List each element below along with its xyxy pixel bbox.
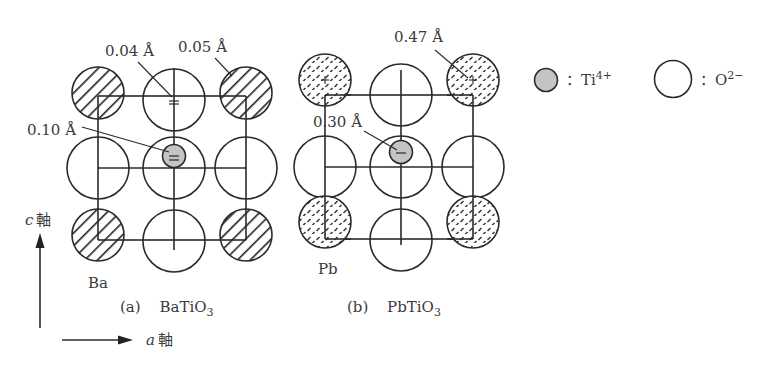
caption-b-prefix: (b) bbox=[347, 298, 368, 316]
a-axis-arrowhead bbox=[118, 336, 133, 345]
leader-line bbox=[364, 131, 397, 150]
leader-line bbox=[82, 127, 169, 152]
ti4-legend-label: ：Ti4+ bbox=[566, 69, 612, 89]
displacement-label-pb: 0.47 Å bbox=[394, 28, 443, 46]
a-site-label-ba: Ba bbox=[88, 274, 108, 292]
leader-line bbox=[215, 58, 232, 76]
o2-legend-label: ：O2− bbox=[700, 69, 744, 89]
ti4-ion bbox=[390, 141, 413, 164]
caption-a-prefix: (a) bbox=[120, 298, 141, 316]
displacement-label-ti: 0.30 Å bbox=[313, 113, 362, 131]
caption-a: (a) BaTiO3 bbox=[120, 298, 214, 319]
a-site-label-pb: Pb bbox=[318, 260, 338, 278]
a-axis-label: a軸 bbox=[146, 331, 173, 349]
c-axis-label: c軸 bbox=[25, 211, 51, 229]
caption-a-compound: BaTiO bbox=[159, 298, 206, 316]
caption-a-subscript: 3 bbox=[207, 306, 214, 319]
panel-b-pbtio3 bbox=[294, 50, 504, 271]
perovskite-displacement-figure: 0.04 Å 0.05 Å 0.10 Å Ba (a) BaTiO3 bbox=[0, 0, 760, 372]
caption-b-compound: PbTiO bbox=[387, 298, 434, 316]
o2-ion bbox=[143, 69, 205, 131]
displacement-label-ti: 0.10 Å bbox=[27, 121, 76, 139]
ti4-legend-symbol bbox=[535, 69, 558, 92]
displacement-label-ti-o: 0.04 Å bbox=[105, 42, 154, 60]
caption-b: (b) PbTiO3 bbox=[347, 298, 441, 319]
caption-b-subscript: 3 bbox=[434, 306, 441, 319]
o2-legend-symbol bbox=[655, 61, 692, 98]
panel-a-batio3 bbox=[67, 58, 277, 272]
displacement-label-ba: 0.05 Å bbox=[178, 38, 227, 56]
c-axis-arrowhead bbox=[36, 233, 45, 248]
legend: ：Ti4+ ：O2− bbox=[535, 61, 744, 98]
